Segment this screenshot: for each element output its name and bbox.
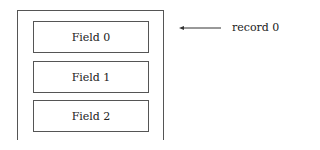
- left-arrow-icon: [179, 24, 223, 32]
- record-label: record 0: [232, 21, 279, 34]
- field-2-label: Field 2: [72, 110, 111, 123]
- field-0-box: Field 0: [33, 21, 149, 53]
- field-0-label: Field 0: [72, 31, 111, 44]
- field-1-label: Field 1: [72, 71, 111, 84]
- field-2-box: Field 2: [33, 100, 149, 132]
- field-1-box: Field 1: [33, 61, 149, 93]
